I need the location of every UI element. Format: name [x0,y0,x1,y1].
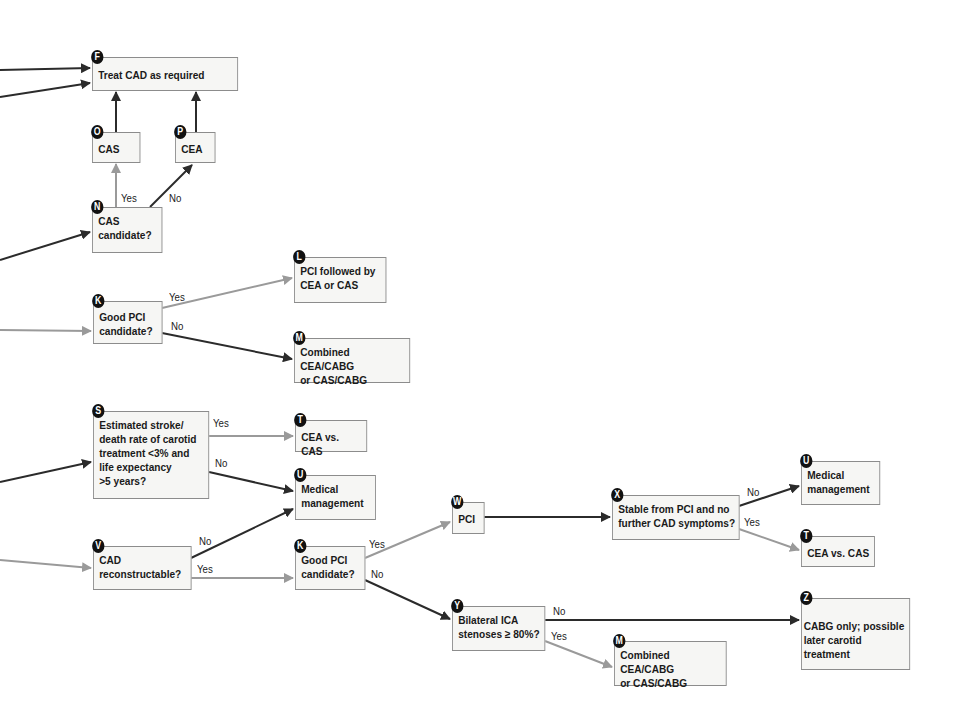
badge-k-upper: K [92,294,104,308]
edge-label-s-no: No [215,457,227,469]
badge-l: L [293,250,305,264]
badge-t-right: T [800,529,812,543]
node-u-medical-mid: U Medical management [295,475,376,520]
badge-s: S [92,404,104,418]
node-p-text: CEA [181,142,211,156]
badge-w: W [451,495,463,509]
node-k-good-pci-candidate-lower: K Good PCI candidate? [295,546,365,590]
badge-p: P [174,125,186,139]
node-t2-text: CEA vs. CAS [807,546,870,560]
node-m-combined-lower: M Combined CEA/CABG or CAS/CABG [614,641,727,686]
badge-z: Z [800,591,812,605]
node-k1-text: Good PCI candidate? [99,310,158,338]
edge-label-x-yes: Yes [744,516,760,528]
node-m2-text: Combined CEA/CABG or CAS/CABG [620,648,722,690]
node-m1-text: Combined CEA/CABG or CAS/CABG [300,345,406,387]
badge-y: Y [451,599,463,613]
edge-label-y-no: No [553,605,565,617]
badge-f: F [91,50,103,64]
node-k2-text: Good PCI candidate? [301,553,361,581]
node-o-text: CAS [98,142,136,156]
node-f-treat-cad: F Treat CAD as required [92,57,238,91]
node-f-text: Treat CAD as required [98,68,234,82]
edge-label-n-yes: Yes [121,192,137,204]
edge-label-k1-yes: Yes [169,291,185,303]
node-s-estimated-stroke: S Estimated stroke/ death rate of caroti… [93,411,209,499]
node-s-text: Estimated stroke/ death rate of carotid … [99,418,205,488]
badge-o: O [91,125,103,139]
edge-label-n-no: No [169,192,181,204]
node-u-medical-right: U Medical management [801,461,880,505]
edge-label-v-no: No [199,535,211,547]
node-z-text: CABG only; possible later carotid treatm… [804,619,906,661]
node-z-cabg-only: Z CABG only; possible later carotid trea… [801,598,910,670]
node-t1-text: CEA vs. CAS [301,430,363,458]
badge-u-right: U [800,454,812,468]
badge-m-lower: M [613,634,625,648]
node-p-cea: P CEA [175,132,215,163]
edge-label-k2-no: No [371,568,383,580]
edge-label-k2-yes: Yes [369,538,385,550]
node-k-good-pci-candidate-upper: K Good PCI candidate? [93,301,163,344]
edge-label-k1-no: No [171,320,183,332]
node-u1-text: Medical management [301,482,371,510]
edge-label-y-yes: Yes [551,630,567,642]
edge-label-s-yes: Yes [213,417,229,429]
node-l-pci-followed: L PCI followed by CEA or CAS [294,257,386,303]
edge-label-x-no: No [747,486,759,498]
node-x-stable-from-pci: X Stable from PCI and no further CAD sym… [612,495,740,540]
node-w-text: PCI [458,512,480,526]
edge-label-v-yes: Yes [197,563,213,575]
node-n-text: CAS candidate? [98,214,158,242]
badge-v: V [92,539,104,553]
node-n-cas-candidate: N CAS candidate? [92,207,162,253]
badge-x: X [611,488,623,502]
node-y-text: Bilateral ICA stenoses ≥ 80%? [458,613,541,641]
badge-k-lower: K [294,539,306,553]
badge-m-upper: M [293,331,305,345]
node-t-cea-vs-cas-right: T CEA vs. CAS [801,536,875,567]
node-m-combined-upper: M Combined CEA/CABG or CAS/CABG [294,338,410,383]
node-o-cas: O CAS [92,132,140,163]
badge-t-mid: T [294,413,306,427]
node-v-text: CAD reconstructable? [99,553,187,581]
node-w-pci: W PCI [452,502,485,534]
node-v-cad-reconstructable: V CAD reconstructable? [93,546,192,590]
node-l-text: PCI followed by CEA or CAS [300,264,382,292]
node-y-bilateral-ica: Y Bilateral ICA stenoses ≥ 80%? [452,606,545,651]
node-t-cea-vs-cas-mid: T CEA vs. CAS [295,420,367,452]
badge-n: N [91,200,103,214]
badge-u-mid: U [294,468,306,482]
node-u2-text: Medical management [807,468,876,496]
node-x-text: Stable from PCI and no further CAD sympt… [618,502,735,530]
